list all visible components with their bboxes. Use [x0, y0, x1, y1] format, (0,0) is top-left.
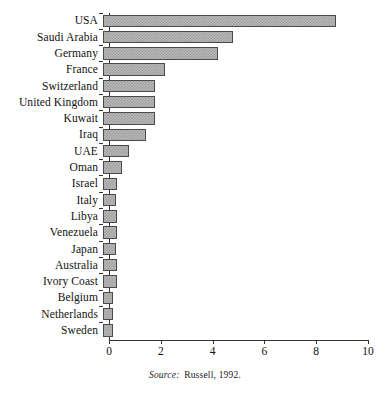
bar-track [103, 323, 390, 339]
bar-track [103, 209, 390, 225]
y-axis-tick [99, 78, 103, 79]
bar [103, 31, 233, 43]
x-axis-tick [161, 340, 162, 344]
bar-row: Italy [0, 192, 390, 208]
bar [103, 15, 336, 27]
bar-track [103, 143, 390, 159]
bar-row: Israel [0, 176, 390, 192]
bar-row: Oman [0, 160, 390, 176]
y-axis-tick [99, 192, 103, 193]
y-axis-tick [99, 241, 103, 242]
bar [103, 80, 155, 92]
category-label: Sweden [0, 325, 103, 337]
bar [103, 226, 117, 238]
y-axis-tick [99, 127, 103, 128]
bar-track [103, 290, 390, 306]
bar-row: Kuwait [0, 111, 390, 127]
source-label: Source: [149, 370, 180, 380]
plot-area: USASaudi ArabiaGermanyFranceSwitzerlandU… [0, 0, 390, 393]
bar [103, 210, 117, 222]
x-axis-tick-label: 6 [262, 346, 268, 358]
bar-track [103, 306, 390, 322]
bar [103, 112, 155, 124]
category-label: Ivory Coast [0, 276, 103, 288]
bar-track [103, 274, 390, 290]
category-label: UAE [0, 146, 103, 158]
y-axis-tick [99, 159, 103, 160]
bar-track [103, 13, 390, 29]
y-axis-tick [99, 29, 103, 30]
category-label: Israel [0, 178, 103, 190]
category-label: Italy [0, 195, 103, 207]
bar-track [103, 78, 390, 94]
y-axis-tick [99, 224, 103, 225]
category-label: USA [0, 15, 103, 27]
category-label: Japan [0, 244, 103, 256]
y-axis-tick [99, 94, 103, 95]
bar-track [103, 257, 390, 273]
x-axis-tick-label: 0 [106, 346, 112, 358]
bar [103, 47, 218, 59]
x-axis-tick [109, 340, 110, 344]
bar [103, 275, 117, 287]
source-note: Source: Russell, 1992. [0, 370, 390, 380]
x-axis-tick [368, 340, 369, 344]
bar-row: Libya [0, 209, 390, 225]
bar-track [103, 241, 390, 257]
bar [103, 308, 113, 320]
y-axis-tick [99, 290, 103, 291]
bar-row: Switzerland [0, 78, 390, 94]
y-axis-tick [99, 306, 103, 307]
bar-track [103, 46, 390, 62]
category-label: Venezuela [0, 227, 103, 239]
bar-row: Belgium [0, 290, 390, 306]
bar [103, 194, 116, 206]
source-reference: Russell, 1992. [182, 370, 241, 380]
y-axis-tick [99, 273, 103, 274]
bar [103, 292, 113, 304]
bar-track [103, 62, 390, 78]
x-axis-tick [316, 340, 317, 344]
bar-row: Saudi Arabia [0, 29, 390, 45]
category-label: United Kingdom [0, 97, 103, 109]
y-axis-tick [99, 110, 103, 111]
category-label: Iraq [0, 129, 103, 141]
bar-chart-figure: USASaudi ArabiaGermanyFranceSwitzerlandU… [0, 0, 390, 393]
bar-row: France [0, 62, 390, 78]
bar [103, 161, 122, 173]
category-label: Kuwait [0, 113, 103, 125]
bar-track [103, 160, 390, 176]
bar [103, 243, 116, 255]
x-axis-tick-label: 8 [313, 346, 319, 358]
x-axis-tick-label: 4 [210, 346, 216, 358]
bar-row: Japan [0, 241, 390, 257]
category-label: Germany [0, 48, 103, 60]
bar-row: Venezuela [0, 225, 390, 241]
bar-track [103, 127, 390, 143]
category-label: France [0, 64, 103, 76]
category-label: Belgium [0, 292, 103, 304]
bar-row: Germany [0, 46, 390, 62]
bar [103, 178, 117, 190]
x-axis-line [109, 340, 368, 341]
y-axis-tick [99, 322, 103, 323]
category-label: Libya [0, 211, 103, 223]
y-axis-tick [99, 175, 103, 176]
y-axis-tick [99, 45, 103, 46]
x-axis-tick-label: 10 [362, 346, 374, 358]
x-axis-tick [213, 340, 214, 344]
category-label: Australia [0, 260, 103, 272]
bar [103, 129, 146, 141]
y-axis-tick [99, 13, 103, 14]
bar-track [103, 29, 390, 45]
bar-track [103, 225, 390, 241]
bar-row: Ivory Coast [0, 274, 390, 290]
bar-track [103, 176, 390, 192]
bar-track [103, 192, 390, 208]
bar-row: Netherlands [0, 306, 390, 322]
category-label: Netherlands [0, 309, 103, 321]
x-axis-tick [264, 340, 265, 344]
bar-row: USA [0, 13, 390, 29]
x-axis-tick-label: 2 [158, 346, 164, 358]
bar [103, 96, 155, 108]
